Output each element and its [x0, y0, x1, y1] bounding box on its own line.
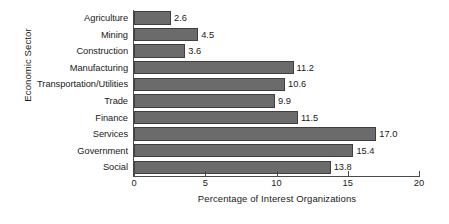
- bar-row: 3.6: [134, 43, 419, 60]
- x-axis-tick: [205, 171, 206, 176]
- bar: [134, 161, 331, 174]
- bar-value-label: 3.6: [185, 43, 201, 60]
- bar: [134, 127, 376, 140]
- bar-row: 10.6: [134, 76, 419, 93]
- x-axis-tick-label: 10: [257, 178, 297, 188]
- y-axis-tick-label: Construction: [30, 43, 131, 60]
- bar-value-label: 11.5: [298, 110, 318, 127]
- bar: [134, 44, 185, 57]
- y-axis-tick-label: Social: [30, 159, 131, 176]
- x-axis-tick: [134, 171, 135, 176]
- y-axis-tick-labels: AgricultureMiningConstructionManufacturi…: [30, 10, 131, 176]
- y-axis-tick-label: Agriculture: [30, 10, 131, 27]
- y-axis-tick-label: Trade: [30, 93, 131, 110]
- x-axis-line: [134, 176, 420, 177]
- bar-chart: Economic Sector AgricultureMiningConstru…: [0, 0, 449, 224]
- bar-row: 4.5: [134, 27, 419, 44]
- y-axis-tick-label: Services: [30, 126, 131, 143]
- x-axis-title: Percentage of Interest Organizations: [134, 193, 420, 204]
- x-axis-tick: [419, 171, 420, 176]
- y-axis-tick-label: Government: [30, 143, 131, 160]
- bar-value-label: 2.6: [171, 10, 187, 27]
- bar-value-label: 10.6: [285, 76, 306, 93]
- bar: [134, 111, 298, 124]
- x-axis-tick-label: 20: [399, 178, 439, 188]
- bar: [134, 94, 275, 107]
- bar-value-label: 4.5: [198, 27, 214, 44]
- x-axis-tick-label: 5: [185, 178, 225, 188]
- x-axis-tick: [348, 171, 349, 176]
- bar: [134, 78, 285, 91]
- x-axis-tick: [277, 171, 278, 176]
- bar: [134, 61, 294, 74]
- bar-row: 2.6: [134, 10, 419, 27]
- x-axis-tick-label: 0: [114, 178, 154, 188]
- bar-row: 17.0: [134, 126, 419, 143]
- bar-value-label: 11.2: [294, 60, 314, 77]
- bar-value-label: 17.0: [376, 126, 397, 143]
- bar-row: 9.9: [134, 93, 419, 110]
- plot-area: 2.64.53.611.210.69.911.517.015.413.8: [134, 10, 419, 176]
- bar-value-label: 15.4: [353, 143, 374, 160]
- bar-row: 11.2: [134, 60, 419, 77]
- bar: [134, 11, 171, 24]
- bar-row: 15.4: [134, 143, 419, 160]
- y-axis-tick-label: Finance: [30, 110, 131, 127]
- bar-row: 11.5: [134, 110, 419, 127]
- y-axis-tick-label: Mining: [30, 27, 131, 44]
- x-axis-tick-label: 15: [328, 178, 368, 188]
- y-axis-tick-label: Transportation/Utilities: [30, 76, 131, 93]
- y-axis-tick-label: Manufacturing: [30, 60, 131, 77]
- bar: [134, 144, 353, 157]
- bar-value-label: 9.9: [275, 93, 291, 110]
- bar: [134, 28, 198, 41]
